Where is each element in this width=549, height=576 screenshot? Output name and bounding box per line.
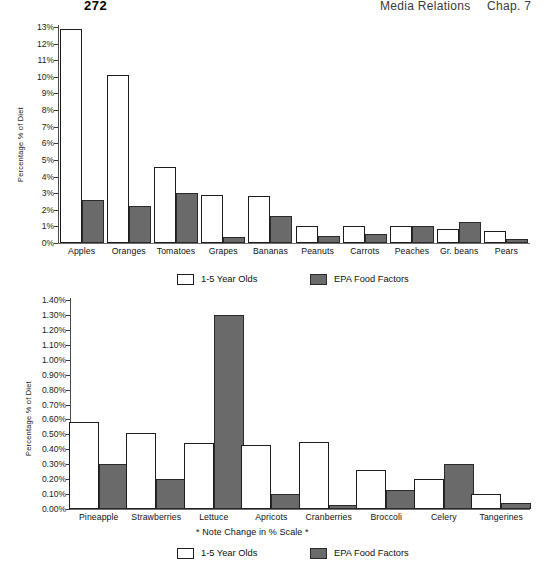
bar: [459, 222, 481, 243]
bar: [126, 433, 156, 509]
bar: [184, 443, 214, 509]
y-axis-tick-label: 11%: [38, 56, 54, 65]
y-axis-tick-label: 10%: [37, 73, 54, 82]
bar: [365, 234, 387, 243]
bar: [390, 226, 412, 243]
x-axis-line: [70, 509, 530, 510]
bar: [201, 195, 223, 243]
legend-swatch-1-5-year-olds: [177, 274, 194, 285]
bar: [484, 231, 506, 243]
bar: [214, 315, 244, 509]
bar: [60, 29, 82, 243]
bar: [356, 470, 386, 509]
bar: [471, 494, 501, 509]
bar: [506, 239, 528, 243]
y-axis-tick-label: 0.50%: [42, 430, 66, 439]
y-axis-tick-label: 0.70%: [42, 400, 66, 409]
y-axis-tick-label: 7%: [42, 122, 54, 131]
legend-label-1-5-year-olds: 1-5 Year Olds: [201, 274, 257, 285]
y-axis-tick-label: 2%: [42, 206, 54, 215]
y-axis-tick-label: 1.00%: [42, 355, 66, 364]
y-axis-tick-label: 9%: [42, 89, 54, 98]
y-axis-tick-label: 6%: [42, 139, 54, 148]
bar: [154, 167, 176, 243]
chart-bottom: Percentage % of Diet1.40%1.30%1.20%1.10%…: [0, 296, 549, 528]
bar: [501, 503, 531, 509]
legend-top: 1-5 Year Olds EPA Food Factors: [170, 274, 470, 288]
bar: [69, 422, 99, 509]
chapter-label: Chap. 7: [487, 0, 531, 13]
x-axis-line: [58, 243, 530, 244]
y-axis-tick-label: 5%: [42, 156, 54, 165]
bar: [99, 464, 129, 509]
legend-bottom: 1-5 Year Olds EPA Food Factors: [170, 548, 470, 562]
legend-swatch-1-5-year-olds: [177, 548, 194, 559]
y-axis-tick-label: 0.30%: [42, 460, 66, 469]
y-axis-tick-label: 0.00%: [42, 505, 66, 514]
x-axis-category-label: Pears: [477, 246, 536, 256]
y-axis-tick-label: 0.40%: [42, 445, 66, 454]
bar: [414, 479, 444, 509]
y-axis-tick-label: 1.30%: [42, 311, 66, 320]
bar: [248, 196, 270, 243]
bar: [329, 505, 359, 509]
chart-top: Percentage % of Diet13%12%11%10%9%8%7%6%…: [0, 22, 549, 272]
bar: [343, 226, 365, 243]
bar: [107, 75, 129, 243]
bar: [271, 494, 301, 509]
bar: [386, 490, 416, 509]
y-axis-tick-label: 1.10%: [42, 341, 66, 350]
bar: [412, 226, 434, 243]
book-title: Media Relations: [380, 0, 471, 13]
y-axis-tick-label: 1.40%: [42, 296, 66, 305]
bar: [176, 193, 198, 243]
legend-label-epa-food-factors: EPA Food Factors: [334, 274, 409, 285]
y-axis-tick-label: 3%: [42, 189, 54, 198]
bar: [223, 237, 245, 243]
page: 272 Media Relations Chap. 7 Percentage %…: [0, 0, 549, 576]
y-axis-title: Percentage % of Diet: [16, 107, 25, 182]
y-axis-tick-label: 0.20%: [42, 475, 66, 484]
bar: [318, 236, 340, 243]
bar: [444, 464, 474, 509]
legend-swatch-epa-food-factors: [310, 548, 327, 559]
y-axis-tick-label: 4%: [42, 172, 54, 181]
y-axis-tick-label: 1%: [42, 222, 54, 231]
bar: [241, 445, 271, 509]
scale-change-note: * Note Change in % Scale *: [196, 527, 309, 537]
y-axis-tick-label: 0.60%: [42, 415, 66, 424]
page-number: 272: [84, 0, 107, 13]
bar: [437, 229, 459, 243]
bar: [82, 200, 104, 243]
bar: [270, 216, 292, 243]
legend-label-epa-food-factors: EPA Food Factors: [334, 548, 409, 559]
y-axis-tick-label: 8%: [42, 106, 54, 115]
bar: [296, 226, 318, 243]
running-head: 272 Media Relations Chap. 7: [0, 0, 549, 18]
y-axis-tick-label: 12%: [37, 39, 54, 48]
x-axis-category-label: Tangerines: [467, 512, 537, 522]
y-axis-tick-label: 0.90%: [42, 370, 66, 379]
y-axis-title: Percentage % of Diet: [24, 381, 33, 456]
y-axis-tick-label: 0.10%: [42, 490, 66, 499]
y-axis-tick-label: 0.80%: [42, 385, 66, 394]
legend-swatch-epa-food-factors: [310, 274, 327, 285]
bar: [129, 206, 151, 243]
bar: [156, 479, 186, 509]
y-axis-tick-label: 1.20%: [42, 326, 66, 335]
bar: [299, 442, 329, 509]
legend-label-1-5-year-olds: 1-5 Year Olds: [201, 548, 257, 559]
y-axis-tick-label: 13%: [37, 23, 54, 32]
